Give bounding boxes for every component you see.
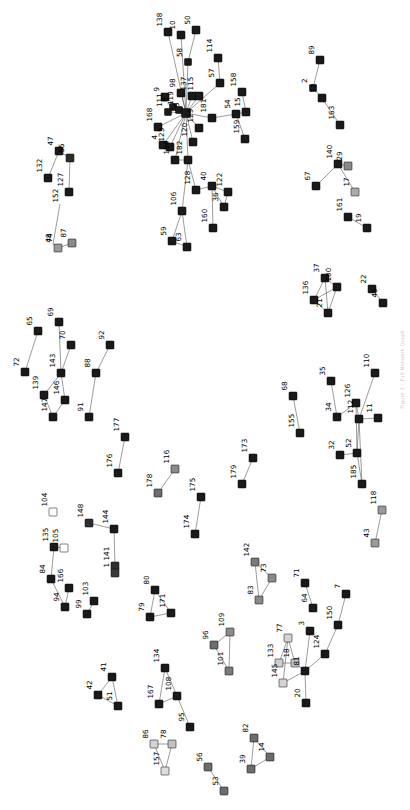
node-square[interactable]	[333, 413, 341, 421]
graph-node[interactable]: 79	[137, 602, 155, 621]
node-square[interactable]	[220, 203, 228, 211]
graph-node[interactable]: 103	[81, 582, 99, 605]
node-square[interactable]	[65, 584, 73, 592]
node-square[interactable]	[336, 451, 344, 459]
graph-node[interactable]: 132	[35, 159, 53, 182]
graph-node[interactable]: 152	[51, 189, 60, 203]
graph-node[interactable]: 69	[46, 307, 64, 326]
graph-node[interactable]: 144	[101, 509, 119, 533]
node-square[interactable]	[353, 449, 361, 457]
node-square[interactable]	[184, 156, 192, 164]
graph-node[interactable]: 134	[152, 648, 170, 672]
graph-node[interactable]: 116	[162, 449, 180, 473]
graph-node[interactable]: 21	[315, 298, 333, 317]
node-square[interactable]	[238, 480, 246, 488]
node-square[interactable]	[378, 506, 386, 514]
node-square[interactable]	[171, 465, 179, 473]
node-square[interactable]	[61, 603, 69, 611]
graph-node[interactable]: 179	[229, 464, 247, 488]
node-square[interactable]	[67, 341, 75, 349]
node-square[interactable]	[54, 244, 62, 252]
node-square[interactable]	[268, 574, 276, 582]
node-square[interactable]	[161, 664, 169, 672]
node-square[interactable]	[121, 433, 129, 441]
graph-node[interactable]: 20	[293, 688, 311, 707]
node-square[interactable]	[83, 610, 91, 618]
node-square[interactable]	[114, 702, 122, 710]
graph-node[interactable]: 100	[324, 267, 342, 291]
graph-node[interactable]: 86	[141, 729, 159, 748]
graph-node[interactable]: 114	[205, 38, 223, 62]
node-square[interactable]	[68, 239, 76, 247]
graph-node[interactable]: 77	[275, 623, 293, 642]
node-square[interactable]	[250, 734, 258, 742]
node-square[interactable]	[60, 544, 68, 552]
graph-node[interactable]: 112	[346, 400, 364, 423]
graph-node[interactable]: 32	[327, 440, 345, 459]
graph-node[interactable]: 159	[232, 119, 250, 143]
graph-node[interactable]: 160	[200, 208, 218, 232]
node-square[interactable]	[161, 767, 169, 775]
node-square[interactable]	[108, 673, 116, 681]
node-square[interactable]	[204, 763, 212, 771]
graph-node[interactable]: 155	[287, 414, 305, 437]
node-square[interactable]	[155, 700, 163, 708]
graph-node[interactable]: 133	[266, 644, 284, 667]
node-square[interactable]	[371, 369, 379, 377]
node-square[interactable]	[50, 543, 58, 551]
node-square[interactable]	[216, 79, 224, 87]
node-square[interactable]	[85, 519, 93, 527]
node-square[interactable]	[90, 597, 98, 605]
graph-node[interactable]: 166	[56, 568, 74, 592]
node-square[interactable]	[255, 596, 263, 604]
node-square[interactable]	[151, 586, 159, 594]
node-square[interactable]	[358, 480, 366, 488]
graph-node[interactable]: 51	[105, 691, 123, 710]
node-square[interactable]	[344, 213, 352, 221]
node-square[interactable]	[85, 413, 93, 421]
node-square[interactable]	[191, 530, 199, 538]
node-square[interactable]	[111, 569, 119, 577]
node-square[interactable]	[168, 740, 176, 748]
graph-node[interactable]: 53	[211, 776, 229, 795]
graph-node[interactable]: 82	[241, 723, 259, 742]
graph-node[interactable]: 19	[354, 213, 372, 232]
node-square[interactable]	[173, 692, 181, 700]
graph-node[interactable]: 171	[158, 594, 176, 617]
node-square[interactable]	[327, 377, 335, 385]
node-square[interactable]	[92, 369, 100, 377]
node-square[interactable]	[284, 634, 292, 642]
node-square[interactable]	[296, 429, 304, 437]
node-square[interactable]	[242, 108, 250, 116]
graph-node[interactable]: 173	[240, 439, 258, 462]
node-square[interactable]	[49, 413, 57, 421]
node-square[interactable]	[49, 508, 57, 516]
node-square[interactable]	[226, 628, 234, 636]
node-square[interactable]	[321, 650, 329, 658]
node-square[interactable]	[379, 299, 387, 307]
node-square[interactable]	[94, 691, 102, 699]
graph-node[interactable]: 56	[195, 752, 213, 771]
graph-node[interactable]: 139	[31, 375, 49, 399]
graph-node[interactable]: 78	[159, 729, 177, 748]
graph-node[interactable]: 147	[40, 398, 58, 421]
node-square[interactable]	[146, 613, 154, 621]
graph-node[interactable]: 143	[48, 354, 66, 377]
node-square[interactable]	[186, 723, 194, 731]
node-square[interactable]	[279, 679, 287, 687]
graph-node[interactable]: 150	[325, 605, 343, 629]
node-square[interactable]	[154, 489, 162, 497]
graph-node[interactable]: 161	[335, 198, 353, 221]
node-square[interactable]	[351, 188, 359, 196]
node-square[interactable]	[167, 609, 175, 617]
graph-node[interactable]: 83	[246, 585, 264, 604]
graph-node[interactable]: 12	[309, 83, 327, 102]
graph-node[interactable]: 50	[183, 15, 201, 34]
graph-node[interactable]: 35	[318, 366, 336, 385]
node-square[interactable]	[21, 368, 29, 376]
node-square[interactable]	[289, 392, 297, 400]
node-square[interactable]	[266, 753, 274, 761]
graph-node[interactable]: 55	[57, 143, 75, 162]
node-square[interactable]	[241, 135, 249, 143]
graph-node[interactable]: 57	[207, 68, 225, 87]
